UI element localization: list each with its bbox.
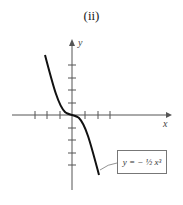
y-axis-arrow-icon (69, 39, 75, 46)
equation-label: y = − ½ x³ (117, 150, 167, 174)
label-leader-line (100, 163, 117, 170)
cubic-graph (0, 0, 183, 205)
y-axis-label: y (78, 37, 82, 48)
x-axis-label: x (163, 118, 167, 129)
